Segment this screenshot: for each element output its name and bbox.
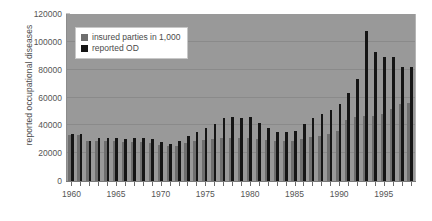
legend-label-insured: insured parties in 1,000 [92, 32, 180, 42]
bar-reported-od [258, 123, 261, 181]
legend-swatch-icon-insured [81, 34, 88, 41]
bar-reported-od [231, 117, 234, 181]
x-axis-tick-mark [107, 182, 108, 186]
x-axis-tick-mark [375, 182, 376, 186]
x-axis-tick-mark [366, 182, 367, 186]
x-axis-tick-mark [277, 182, 278, 186]
x-axis-tick-mark [89, 182, 90, 186]
legend-item-insured: insured parties in 1,000 [81, 32, 180, 42]
bar-group [308, 14, 317, 181]
bar-reported-od [133, 138, 136, 181]
x-axis-tick-mark [384, 182, 385, 186]
x-axis-tick-mark [161, 182, 162, 186]
x-axis-tick-mark [170, 182, 171, 186]
legend-swatch-icon-reported-od [81, 45, 88, 52]
bar-reported-od [142, 138, 145, 181]
bar-reported-od [267, 128, 270, 181]
x-axis-tick-mark [330, 182, 331, 186]
y-axis-tick-label: 100000 [34, 37, 62, 47]
bar-reported-od [115, 138, 118, 181]
bar-reported-od [392, 57, 395, 181]
bar-reported-od [285, 132, 288, 181]
x-axis-tick-mark [402, 182, 403, 186]
chart-legend: insured parties in 1,000 reported OD [75, 27, 188, 59]
y-axis-tick-label: 40000 [38, 120, 62, 130]
bar-group [406, 14, 415, 181]
y-axis-tick-label: 60000 [38, 93, 62, 103]
bar-group [263, 14, 272, 181]
bar-group [361, 14, 370, 181]
bar-reported-od [89, 141, 92, 181]
bar-chart: reported occupational diseases 020000400… [0, 0, 432, 221]
bar-group [397, 14, 406, 181]
bar-group [317, 14, 326, 181]
bar-reported-od [383, 57, 386, 181]
bar-reported-od [276, 132, 279, 181]
x-axis-tick-mark [71, 182, 72, 186]
y-axis-tick-label: 20000 [38, 148, 62, 158]
bar-reported-od [187, 136, 190, 181]
bar-reported-od [339, 104, 342, 181]
y-axis-tick-label: 80000 [38, 65, 62, 75]
legend-item-reported-od: reported OD [81, 43, 180, 53]
x-axis-tick-mark [98, 182, 99, 186]
x-axis-tick-labels: 19601965197019751980198519901995 [67, 189, 415, 205]
x-axis-tick-mark [321, 182, 322, 186]
bar-group [353, 14, 362, 181]
x-axis-tick-label: 1965 [107, 189, 126, 199]
bar-reported-od [124, 139, 127, 181]
bar-group [210, 14, 219, 181]
bar-reported-od [356, 79, 359, 181]
bar-reported-od [294, 131, 297, 181]
x-axis-tick-mark [214, 182, 215, 186]
bar-group [335, 14, 344, 181]
bar-reported-od [169, 144, 172, 181]
bar-reported-od [196, 132, 199, 181]
y-axis-tick-labels: 020000400006000080000100000120000 [18, 14, 66, 181]
bar-reported-od [80, 134, 83, 181]
bar-group [326, 14, 335, 181]
x-axis-tick-mark [250, 182, 251, 186]
x-axis-tick-mark [339, 182, 340, 186]
x-axis-tick-label: 1970 [151, 189, 170, 199]
x-axis-tick-label: 1960 [62, 189, 81, 199]
x-axis-tick-mark [286, 182, 287, 186]
x-axis-tick-mark [143, 182, 144, 186]
bar-reported-od [214, 124, 217, 181]
x-axis-tick-mark [312, 182, 313, 186]
bar-reported-od [312, 118, 315, 181]
x-axis-tick-mark [232, 182, 233, 186]
legend-label-reported-od: reported OD [92, 43, 139, 53]
x-axis-tick-mark [116, 182, 117, 186]
bar-group [254, 14, 263, 181]
x-axis-tick-mark [125, 182, 126, 186]
bar-reported-od [330, 110, 333, 181]
x-axis-tick-mark [196, 182, 197, 186]
x-axis-tick-mark [411, 182, 412, 186]
bar-group [281, 14, 290, 181]
bar-group [290, 14, 299, 181]
bar-group [245, 14, 254, 181]
bar-reported-od [98, 138, 101, 181]
bar-reported-od [160, 142, 163, 181]
bar-reported-od [347, 93, 350, 181]
bar-group [192, 14, 201, 181]
bar-reported-od [321, 114, 324, 181]
x-axis-tick-mark [357, 182, 358, 186]
bar-group [388, 14, 397, 181]
bar-reported-od [240, 118, 243, 181]
x-axis-tick-mark [80, 182, 81, 186]
bar-group [344, 14, 353, 181]
bar-reported-od [71, 134, 74, 181]
x-axis-tick-mark [179, 182, 180, 186]
x-axis-tick-mark [259, 182, 260, 186]
bar-group [272, 14, 281, 181]
bar-group [299, 14, 308, 181]
x-axis-tick-mark [134, 182, 135, 186]
x-axis-tick-mark [303, 182, 304, 186]
x-axis-ticks [67, 182, 415, 187]
bar-reported-od [374, 52, 377, 181]
bar-reported-od [107, 138, 110, 181]
x-axis-tick-mark [152, 182, 153, 186]
x-axis-tick-label: 1985 [285, 189, 304, 199]
